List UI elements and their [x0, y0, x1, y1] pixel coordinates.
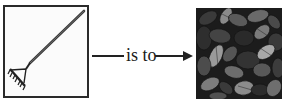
leaves-image [196, 8, 282, 99]
analogy-connector: is to [91, 44, 195, 68]
leaves-panel [196, 8, 282, 99]
rake-icon [5, 7, 87, 96]
relation-text: is to [126, 45, 157, 65]
rake-panel [3, 5, 89, 98]
connector-line [92, 55, 124, 57]
arrow-line [155, 55, 185, 57]
arrow-right-icon [183, 51, 193, 61]
